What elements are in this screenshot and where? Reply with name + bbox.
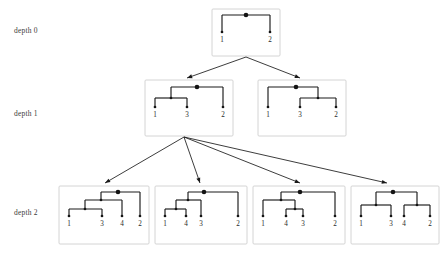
root-node-d2-t3	[298, 190, 303, 195]
leaf-dot-d2-t2-1	[185, 215, 188, 218]
tree-box-d2-t1	[59, 186, 149, 244]
leaf-label-d0-t1-1: 2	[268, 36, 272, 44]
leaf-label-d2-t3-0: 1	[261, 220, 265, 228]
internal-node-d2-t4-1	[416, 204, 419, 207]
expansion-arrow-exp-d1-3	[184, 137, 387, 184]
internal-node-d2-t1-1	[84, 208, 87, 211]
leaf-dot-d2-t4-2	[403, 215, 406, 218]
internal-node-d2-t3-0	[280, 199, 283, 202]
leaf-dot-d2-t1-3	[139, 215, 142, 218]
leaf-dot-d1-t2-2	[335, 106, 338, 109]
leaf-label-d2-t3-1: 4	[284, 220, 288, 228]
expansion-arrow-exp-d1-2	[184, 137, 300, 183]
arrow-line-exp-d0-0	[187, 57, 246, 78]
leaf-dot-d2-t3-3	[334, 215, 337, 218]
arrow-line-exp-d1-2	[184, 137, 300, 183]
tree-d1-t2: 132	[258, 80, 346, 136]
leaf-label-d2-t2-2: 3	[199, 220, 203, 228]
leaf-dot-d0-t1-0	[221, 31, 224, 34]
tree-d0-t1: 12	[212, 9, 280, 56]
internal-node-d1-t1-0	[170, 97, 173, 100]
leaf-dot-d0-t1-1	[269, 31, 272, 34]
leaf-dot-d2-t2-0	[164, 215, 167, 218]
leaf-label-d1-t2-1: 3	[298, 111, 302, 119]
arrow-head-exp-d1-1	[196, 177, 200, 183]
internal-node-d2-t4-0	[375, 204, 378, 207]
arrow-line-exp-d1-0	[105, 137, 184, 183]
depth-label-1: depth 1	[14, 109, 38, 118]
leaf-dot-d2-t1-2	[121, 215, 124, 218]
internal-node-d2-t1-0	[100, 199, 103, 202]
internal-node-d1-t2-0	[317, 97, 320, 100]
leaf-dot-d2-t2-3	[237, 215, 240, 218]
leaf-label-d1-t2-2: 2	[334, 111, 338, 119]
tree-d2-t3: 1432	[253, 186, 345, 244]
tree-box-d1-t1	[145, 80, 233, 136]
leaf-dot-d2-t3-2	[302, 215, 305, 218]
tree-box-d2-t3	[253, 186, 345, 244]
leaf-label-d1-t1-2: 2	[221, 111, 225, 119]
arrow-head-exp-d1-2	[294, 179, 300, 183]
leaf-label-d2-t1-0: 1	[67, 220, 71, 228]
arrow-line-exp-d0-1	[246, 57, 300, 78]
leaf-dot-d1-t1-1	[186, 106, 189, 109]
internal-node-d2-t2-1	[175, 208, 178, 211]
tree-d2-t2: 1432	[155, 186, 247, 244]
leaf-label-d2-t1-3: 2	[138, 220, 142, 228]
tree-box-d2-t4	[351, 186, 439, 244]
leaf-label-d2-t2-1: 4	[184, 220, 188, 228]
root-node-d1-t1	[195, 85, 200, 90]
tree-d1-t1: 132	[145, 80, 233, 136]
tree-d2-t4: 1342	[351, 186, 439, 244]
leaf-label-d0-t1-0: 1	[220, 36, 224, 44]
arrow-head-exp-d0-0	[187, 74, 193, 78]
leaf-dot-d2-t4-0	[360, 215, 363, 218]
root-node-d2-t1	[116, 190, 121, 195]
leaf-label-d2-t4-2: 4	[402, 220, 406, 228]
leaf-dot-d2-t3-0	[262, 215, 265, 218]
leaf-label-d1-t1-1: 3	[185, 111, 189, 119]
root-node-d1-t2	[294, 85, 299, 90]
internal-node-d2-t2-0	[187, 199, 190, 202]
tree-diagram-svg: 121321321342143214321342	[0, 0, 447, 257]
leaf-dot-d1-t1-2	[222, 106, 225, 109]
leaf-label-d2-t2-0: 1	[163, 220, 167, 228]
root-node-d2-t2	[202, 190, 207, 195]
leaf-dot-d1-t2-1	[299, 106, 302, 109]
diagram-canvas: 121321321342143214321342 depth 0 depth 1…	[0, 0, 447, 257]
leaf-label-d2-t3-3: 2	[333, 220, 337, 228]
arrow-line-exp-d1-1	[184, 137, 200, 183]
leaf-label-d1-t2-0: 1	[266, 111, 270, 119]
arrow-head-exp-d0-1	[294, 74, 300, 78]
leaf-dot-d2-t1-1	[101, 215, 104, 218]
leaf-dot-d2-t1-0	[68, 215, 71, 218]
root-node-d0-t1	[244, 13, 249, 18]
leaf-label-d2-t4-0: 1	[359, 220, 363, 228]
internal-node-d2-t3-1	[294, 208, 297, 211]
root-node-d2-t4	[391, 190, 396, 195]
leaf-dot-d1-t1-0	[154, 106, 157, 109]
leaf-label-d2-t2-3: 2	[236, 220, 240, 228]
expansion-arrow-exp-d0-1	[246, 57, 300, 78]
tree-d2-t1: 1342	[59, 186, 149, 244]
leaf-dot-d2-t3-1	[285, 215, 288, 218]
leaf-label-d2-t3-2: 3	[301, 220, 305, 228]
expansion-arrow-exp-d0-0	[187, 57, 246, 78]
leaf-label-d2-t1-1: 3	[100, 220, 104, 228]
arrow-line-exp-d1-3	[184, 137, 387, 183]
leaf-label-d1-t1-0: 1	[153, 111, 157, 119]
expansion-arrow-exp-d1-1	[184, 137, 200, 183]
leaf-label-d2-t4-1: 3	[389, 220, 393, 228]
arrow-head-exp-d1-0	[105, 179, 111, 183]
leaf-dot-d2-t4-1	[390, 215, 393, 218]
depth-label-0: depth 0	[14, 26, 38, 35]
leaf-label-d2-t1-2: 4	[120, 220, 124, 228]
leaf-label-d2-t4-3: 2	[428, 220, 432, 228]
tree-box-d1-t2	[258, 80, 346, 136]
leaf-dot-d2-t4-3	[429, 215, 432, 218]
leaf-dot-d2-t2-2	[200, 215, 203, 218]
depth-label-2: depth 2	[14, 208, 38, 217]
expansion-arrow-exp-d1-0	[105, 137, 184, 183]
leaf-dot-d1-t2-0	[267, 106, 270, 109]
